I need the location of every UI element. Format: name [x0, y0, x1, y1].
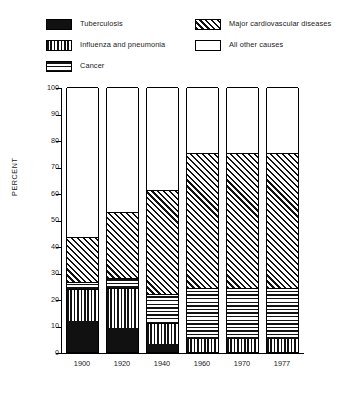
bar-segment-1940-tuberculosis[interactable] — [147, 344, 178, 352]
y-tick-label: 30 — [51, 269, 59, 276]
bar-segment-1977-cancer[interactable] — [267, 288, 298, 338]
bar-segment-1960-influenza-and-pneumonia[interactable] — [187, 339, 218, 352]
bar-segment-1977-major-cardiovascular-diseases[interactable] — [267, 153, 298, 288]
bar-segment-1940-all-other-causes[interactable] — [147, 87, 178, 190]
y-tick-label: 20 — [51, 296, 59, 303]
bar-segment-1970-major-cardiovascular-diseases[interactable] — [227, 153, 258, 288]
bar-1940[interactable] — [146, 88, 179, 353]
y-tick-label: 90 — [51, 110, 59, 117]
bar-segment-1920-influenza-and-pneumonia[interactable] — [107, 288, 138, 328]
y-tick-label: 100 — [47, 84, 59, 91]
bar-segment-1900-cancer[interactable] — [67, 282, 98, 289]
x-tick-label-1977: 1977 — [259, 360, 305, 367]
bar-segment-1900-influenza-and-pneumonia[interactable] — [67, 289, 98, 321]
bar-segment-1900-all-other-causes[interactable] — [67, 87, 98, 237]
bar-1920[interactable] — [106, 88, 139, 353]
y-tick-label: 50 — [51, 216, 59, 223]
stacked-bar-chart: PERCENT 1009080706050403020100 190019201… — [0, 0, 341, 401]
bar-segment-1960-major-cardiovascular-diseases[interactable] — [187, 153, 218, 288]
bar-segment-1920-major-cardiovascular-diseases[interactable] — [107, 212, 138, 278]
y-tick-label: 0 — [55, 349, 59, 356]
bar-1977[interactable] — [266, 88, 299, 353]
bar-1970[interactable] — [226, 88, 259, 353]
bar-segment-1940-major-cardiovascular-diseases[interactable] — [147, 190, 178, 293]
bar-segment-1970-cancer[interactable] — [227, 288, 258, 338]
bar-segment-1940-influenza-and-pneumonia[interactable] — [147, 323, 178, 344]
bar-segment-1960-all-other-causes[interactable] — [187, 87, 218, 153]
bar-1960[interactable] — [186, 88, 219, 353]
y-tick-label: 60 — [51, 190, 59, 197]
bar-segment-1970-influenza-and-pneumonia[interactable] — [227, 339, 258, 352]
y-tick-label: 80 — [51, 137, 59, 144]
bar-segment-1920-cancer[interactable] — [107, 278, 138, 289]
y-tick-label: 10 — [51, 322, 59, 329]
y-axis-title: PERCENT — [10, 157, 19, 196]
plot-area: 1009080706050403020100 19001920194019601… — [62, 88, 302, 353]
bar-1900[interactable] — [66, 88, 99, 353]
y-tick-label: 40 — [51, 243, 59, 250]
x-axis-line — [61, 353, 304, 354]
bar-segment-1977-all-other-causes[interactable] — [267, 87, 298, 153]
bar-segment-1920-all-other-causes[interactable] — [107, 87, 138, 212]
y-tick-label: 70 — [51, 163, 59, 170]
bar-segment-1920-tuberculosis[interactable] — [107, 328, 138, 352]
bar-segment-1900-major-cardiovascular-diseases[interactable] — [67, 237, 98, 282]
bar-segment-1977-influenza-and-pneumonia[interactable] — [267, 339, 298, 352]
bar-segment-1940-cancer[interactable] — [147, 294, 178, 323]
bar-segment-1970-all-other-causes[interactable] — [227, 87, 258, 153]
bar-segment-1960-cancer[interactable] — [187, 288, 218, 338]
bar-segment-1900-tuberculosis[interactable] — [67, 321, 98, 352]
